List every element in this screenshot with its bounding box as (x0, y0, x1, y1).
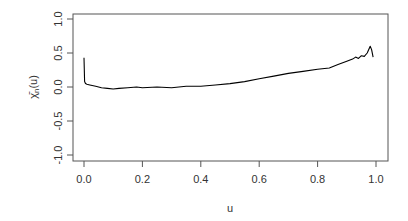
x-tick-label: 0.0 (76, 173, 91, 185)
y-tick-label: 0.0 (52, 79, 64, 94)
y-axis-title: χ̄n(u) (27, 75, 41, 99)
chart-canvas: 0.00.20.40.60.81.0 -1.0-0.50.00.51.0 u χ… (0, 0, 408, 221)
y-tick-label: 1.0 (52, 11, 64, 26)
plot-box (73, 14, 388, 161)
data-line (84, 46, 373, 89)
y-tick-label: 0.5 (52, 45, 64, 60)
y-tick-label: -1.0 (52, 146, 64, 165)
x-tick-label: 1.0 (368, 173, 383, 185)
x-axis: 0.00.20.40.60.81.0 (76, 161, 383, 185)
y-axis: -1.0-0.50.00.51.0 (52, 11, 73, 164)
x-tick-label: 0.4 (193, 173, 208, 185)
x-tick-label: 0.6 (252, 173, 267, 185)
x-tick-label: 0.2 (135, 173, 150, 185)
y-tick-label: -0.5 (52, 112, 64, 131)
x-axis-title: u (227, 202, 233, 214)
x-tick-label: 0.8 (310, 173, 325, 185)
